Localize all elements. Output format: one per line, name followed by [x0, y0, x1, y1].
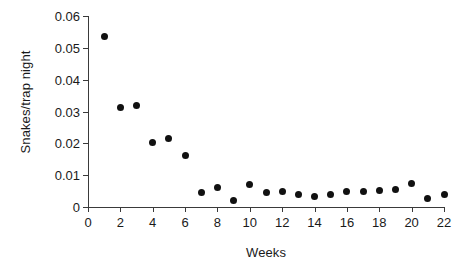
data-point	[327, 191, 334, 198]
data-point	[133, 102, 140, 109]
x-tick-mark	[185, 207, 186, 212]
y-tick-mark	[83, 112, 88, 113]
x-tick-mark	[444, 207, 445, 212]
x-tick-mark	[412, 207, 413, 212]
plot-area: 00.010.020.030.040.050.06 02468101214161…	[88, 16, 444, 207]
data-point	[117, 104, 124, 111]
x-tick-label: 10	[243, 215, 257, 230]
y-tick-label: 0.06	[55, 9, 80, 24]
data-point	[343, 188, 350, 195]
x-tick-label: 6	[181, 215, 188, 230]
x-tick-label: 4	[149, 215, 156, 230]
data-point	[392, 186, 399, 193]
data-point	[263, 189, 270, 196]
x-tick-label: 12	[275, 215, 289, 230]
data-point	[246, 181, 253, 188]
y-axis-line	[88, 16, 89, 207]
y-tick-label: 0	[73, 200, 80, 215]
data-point	[149, 139, 156, 146]
data-point	[182, 152, 189, 159]
x-tick-mark	[153, 207, 154, 212]
data-point	[214, 184, 221, 191]
data-point	[165, 135, 172, 142]
data-point	[424, 195, 431, 202]
y-tick-mark	[83, 143, 88, 144]
x-tick-label: 20	[404, 215, 418, 230]
x-tick-mark	[282, 207, 283, 212]
y-tick-label: 0.05	[55, 40, 80, 55]
x-tick-mark	[315, 207, 316, 212]
x-tick-label: 2	[117, 215, 124, 230]
data-point	[198, 189, 205, 196]
y-axis-title: Snakes/trap night	[18, 2, 36, 202]
data-point	[360, 188, 367, 195]
x-tick-label: 14	[307, 215, 321, 230]
x-tick-label: 8	[214, 215, 221, 230]
y-tick-mark	[83, 48, 88, 49]
x-tick-mark	[217, 207, 218, 212]
x-tick-mark	[347, 207, 348, 212]
x-tick-label: 0	[84, 215, 91, 230]
data-point	[311, 193, 318, 200]
x-tick-mark	[379, 207, 380, 212]
data-point	[408, 180, 415, 187]
data-point	[295, 191, 302, 198]
y-tick-mark	[83, 16, 88, 17]
data-point	[279, 188, 286, 195]
y-tick-label: 0.03	[55, 104, 80, 119]
y-tick-label: 0.01	[55, 168, 80, 183]
y-tick-label: 0.02	[55, 136, 80, 151]
x-tick-mark	[250, 207, 251, 212]
x-tick-label: 22	[437, 215, 451, 230]
data-point	[441, 191, 448, 198]
scatter-plot-figure: Snakes/trap night 00.010.020.030.040.050…	[0, 0, 461, 271]
data-point	[230, 197, 237, 204]
y-tick-mark	[83, 80, 88, 81]
data-point	[101, 33, 108, 40]
x-tick-label: 18	[372, 215, 386, 230]
y-tick-label: 0.04	[55, 72, 80, 87]
x-axis-line	[88, 207, 444, 208]
data-point	[376, 187, 383, 194]
x-tick-mark	[120, 207, 121, 212]
y-tick-mark	[83, 175, 88, 176]
x-axis-title: Weeks	[88, 245, 444, 260]
x-tick-label: 16	[340, 215, 354, 230]
x-tick-mark	[88, 207, 89, 212]
